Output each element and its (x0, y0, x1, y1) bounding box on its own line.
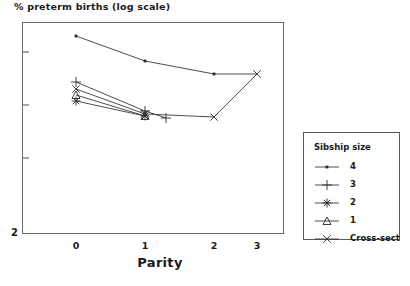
series-3 (71, 77, 171, 123)
x-tick-label-2: 2 (204, 240, 224, 251)
legend-item-1[interactable]: 1 (312, 213, 400, 229)
legend-label-4: 4 (350, 161, 356, 171)
legend-item-3[interactable]: 3 (312, 177, 400, 193)
plot-frame (23, 23, 284, 234)
legend-marker-plus-icon (312, 177, 344, 193)
series-4 (75, 35, 257, 76)
legend-label-cross-sect: Cross-sect (350, 233, 400, 243)
legend-marker-cross-icon (312, 231, 344, 247)
chart-container: % preterm births (log scale) (0, 0, 410, 286)
x-tick-label-3: 3 (247, 240, 267, 251)
series-1 (72, 91, 149, 120)
legend-label-2: 2 (350, 197, 356, 207)
y-tick-label-0: 2 (2, 227, 18, 238)
series-4-markers (75, 35, 216, 76)
series-2 (72, 97, 150, 121)
legend-marker-dot-icon (312, 159, 344, 175)
legend-label-1: 1 (350, 215, 356, 225)
series-cross-sect-markers (72, 70, 260, 120)
legend-marker-triangle-icon (312, 213, 344, 229)
series-cross-sect (72, 70, 260, 120)
legend: Sibship size 4 3 2 (303, 132, 400, 240)
x-tick-label-1: 1 (135, 240, 155, 251)
x-tick-label-0: 0 (66, 240, 86, 251)
legend-item-4[interactable]: 4 (312, 159, 400, 175)
y-axis-ticks (23, 52, 30, 158)
legend-title: Sibship size (314, 142, 371, 152)
legend-item-2[interactable]: 2 (312, 195, 400, 211)
legend-item-cross-sect[interactable]: Cross-sect (312, 231, 400, 247)
series-3-markers (71, 77, 171, 123)
x-axis-label: Parity (120, 255, 200, 270)
legend-marker-asterisk-icon (312, 195, 344, 211)
legend-label-3: 3 (350, 179, 356, 189)
